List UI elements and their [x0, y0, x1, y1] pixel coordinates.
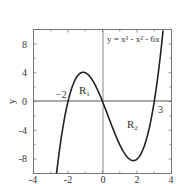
root-label-right: 3	[158, 104, 163, 115]
cubic-curve	[56, 30, 163, 173]
y-tick-label-8: 8	[22, 39, 27, 50]
x-tick-label-4: 4	[169, 174, 174, 184]
region-label-r2: R2	[127, 118, 138, 132]
y-axis-label: y	[6, 99, 17, 104]
region-r1-subscript: 1	[86, 90, 90, 98]
y-tick-label-4: 4	[22, 67, 27, 78]
region-label-r1: R1	[79, 84, 90, 98]
x-tick-label-2: 2	[135, 174, 140, 184]
y-tick-label-0: 0	[22, 96, 27, 107]
y-tick-label-neg4: -4	[19, 125, 27, 136]
x-tick-label-neg4: -4	[29, 174, 37, 184]
equation-label: y = x³ - x² - 6x	[107, 34, 160, 44]
cubic-function-chart: y = x³ - x² - 6x y 8 4 0 -4 -8 -4 -2 0 2…	[0, 0, 189, 184]
x-tick-label-neg2: -2	[64, 174, 72, 184]
x-tick-label-0: 0	[101, 174, 106, 184]
root-label-left: −2	[56, 89, 67, 100]
y-tick-label-neg8: -8	[19, 153, 27, 164]
region-r2-subscript: 2	[134, 124, 138, 132]
